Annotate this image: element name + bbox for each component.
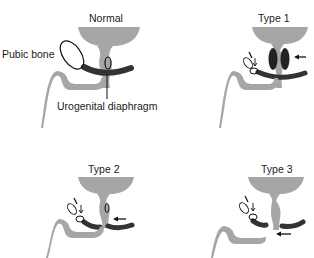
arrow-icon	[113, 217, 126, 222]
urogenital-diaphragm-right	[108, 225, 132, 228]
bladder	[252, 27, 308, 54]
label-urogenital-diaphragm: Urogenital diaphragm	[57, 100, 158, 112]
arrow-icon	[276, 232, 291, 237]
sphincter-left	[269, 48, 278, 70]
small-arrow-icon	[79, 205, 83, 213]
lower-tract	[211, 226, 266, 258]
sphincter-right	[281, 48, 290, 70]
urogenital-diaphragm-left	[84, 222, 100, 227]
panel-type3: Type 3	[211, 163, 304, 258]
urogenital-diaphragm-left	[253, 221, 266, 225]
label-pubic-bone: Pubic bone	[2, 48, 55, 60]
small-tick-mark	[245, 196, 248, 202]
urogenital-diaphragm-right	[282, 222, 303, 227]
pubic-bone	[238, 201, 251, 215]
diagram-canvas: Normal Pubic bone Urogenital diaphragm T…	[0, 0, 314, 258]
panel-title-type1: Type 1	[258, 12, 290, 24]
panel-title-type2: Type 2	[88, 163, 120, 175]
panel-normal: Normal Pubic bone Urogenital diaphragm	[2, 12, 158, 128]
arrow-icon	[294, 55, 306, 60]
bladder	[248, 177, 304, 204]
lower-tract	[219, 71, 278, 128]
panel-title-type3: Type 3	[261, 163, 293, 175]
bladder	[78, 177, 134, 204]
small-arrow-icon	[251, 203, 255, 211]
panel-title-normal: Normal	[89, 12, 123, 24]
small-ring	[76, 216, 84, 222]
urethra	[271, 202, 281, 230]
panel-type2: Type 2	[46, 163, 134, 258]
bladder	[78, 27, 140, 58]
small-arrow-icon	[253, 58, 257, 66]
panel-type1: Type 1	[219, 12, 308, 128]
small-tick-mark	[74, 198, 77, 204]
small-tick-mark	[249, 52, 252, 58]
